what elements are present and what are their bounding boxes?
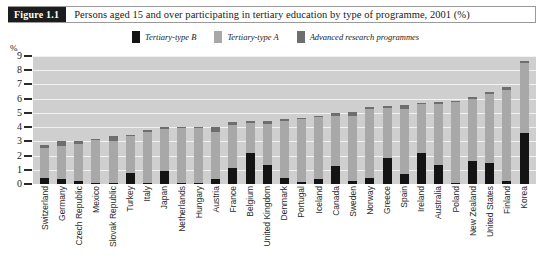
bar-segment-tertiary-type-a xyxy=(485,94,494,162)
x-axis-tick-label: United States xyxy=(485,186,494,258)
bar-segment-tertiary-type-b xyxy=(109,183,118,184)
bar-column[interactable] xyxy=(314,116,323,184)
bar-column[interactable] xyxy=(143,130,152,184)
bar-series-container xyxy=(33,56,536,184)
bar-segment-tertiary-type-b xyxy=(211,179,220,184)
bar-column[interactable] xyxy=(451,101,460,184)
legend-item[interactable]: Advanced research programmes xyxy=(297,31,420,43)
x-axis-tick-label-text: New Zealand xyxy=(468,186,477,236)
bar-column[interactable] xyxy=(57,141,66,184)
x-axis-tick-label-text: Switzerland xyxy=(40,186,49,230)
legend-swatch-icon xyxy=(214,31,222,43)
x-axis-tick-label: Turkey xyxy=(126,186,135,258)
y-axis-tick-label: 9 xyxy=(17,51,22,61)
y-axis-ticks xyxy=(24,56,32,184)
bar-column[interactable] xyxy=(246,121,255,184)
x-axis-tick-label-text: Slovak Republic xyxy=(109,186,118,247)
bar-segment-tertiary-type-b xyxy=(331,166,340,184)
x-axis-tick-label-text: Hungary xyxy=(194,186,203,218)
bar-column[interactable] xyxy=(263,121,272,184)
bar-segment-tertiary-type-b xyxy=(228,168,237,184)
bar-column[interactable] xyxy=(485,92,494,184)
bar-column[interactable] xyxy=(400,105,409,184)
x-axis-tick-label-text: Mexico xyxy=(91,186,100,213)
x-axis-tick-label-text: Iceland xyxy=(314,186,323,213)
x-axis-tick-label-text: Belgium xyxy=(246,186,255,217)
bar-segment-tertiary-type-a xyxy=(91,140,100,183)
x-axis-tick-label: Korea xyxy=(520,186,529,258)
x-axis-tick-label-text: Austria xyxy=(211,186,220,212)
x-axis-tick-label-text: Japan xyxy=(160,186,169,209)
x-axis-tick-label-text: Norway xyxy=(365,186,374,215)
x-axis-tick-label-text: Spain xyxy=(400,186,409,208)
bar-segment-tertiary-type-b xyxy=(40,178,49,184)
bar-column[interactable] xyxy=(520,61,529,184)
bar-segment-tertiary-type-b xyxy=(297,182,306,184)
bar-column[interactable] xyxy=(417,103,426,184)
bar-column[interactable] xyxy=(331,113,340,184)
x-axis-tick-label-text: Australia xyxy=(434,186,443,219)
bar-column[interactable] xyxy=(297,118,306,184)
x-axis-labels: SwitzerlandGermanyCzech RepublicMexicoSl… xyxy=(33,186,536,258)
figure-number-badge: Figure 1.1 xyxy=(8,7,66,22)
bar-column[interactable] xyxy=(126,135,135,184)
chart-area: 0123456789 xyxy=(9,56,536,184)
bar-segment-tertiary-type-b xyxy=(348,181,357,184)
bar-column[interactable] xyxy=(74,141,83,184)
bar-segment-tertiary-type-b xyxy=(194,183,203,184)
y-axis-tick-label: 3 xyxy=(17,136,22,146)
bar-segment-tertiary-type-a xyxy=(297,119,306,182)
bar-segment-tertiary-type-a xyxy=(365,109,374,178)
x-axis-tick-label-text: Netherlands xyxy=(177,186,186,232)
legend-label: Tertiary-type A xyxy=(227,32,278,42)
y-axis-tick-label: 8 xyxy=(17,65,22,75)
x-axis-tick-label: Poland xyxy=(451,186,460,258)
x-axis-tick-label-text: Greece xyxy=(383,186,392,214)
bar-segment-tertiary-type-a xyxy=(331,116,340,166)
bar-column[interactable] xyxy=(365,107,374,184)
y-axis-labels: 0123456789 xyxy=(9,56,22,184)
bar-column[interactable] xyxy=(434,102,443,184)
bar-column[interactable] xyxy=(280,119,289,184)
bar-segment-tertiary-type-a xyxy=(451,102,460,184)
x-axis-tick-label-text: Portugal xyxy=(297,186,306,218)
y-axis-tick-mark xyxy=(24,69,32,71)
x-axis-tick-label: New Zealand xyxy=(468,186,477,258)
y-axis-tick-label: 0 xyxy=(17,179,22,189)
x-axis-tick-label-text: France xyxy=(228,186,237,212)
bar-column[interactable] xyxy=(348,112,357,184)
bar-column[interactable] xyxy=(228,122,237,184)
legend-swatch-icon xyxy=(132,31,140,43)
bar-column[interactable] xyxy=(40,145,49,184)
bar-segment-tertiary-type-b xyxy=(468,161,477,184)
bar-column[interactable] xyxy=(177,127,186,184)
bar-segment-tertiary-type-a xyxy=(228,125,237,168)
y-axis-tick-mark xyxy=(24,140,32,142)
bar-column[interactable] xyxy=(468,97,477,184)
bar-column[interactable] xyxy=(502,87,511,184)
bar-column[interactable] xyxy=(109,136,118,184)
y-axis-tick-label: 7 xyxy=(17,79,22,89)
bar-segment-tertiary-type-a xyxy=(400,109,409,174)
y-axis-tick-mark xyxy=(24,83,32,85)
figure-header: Figure 1.1 Persons aged 15 and over part… xyxy=(8,6,536,23)
plot-region xyxy=(33,56,536,184)
bar-column[interactable] xyxy=(160,127,169,184)
legend-item[interactable]: Tertiary-type A xyxy=(214,31,278,43)
bar-segment-tertiary-type-b xyxy=(502,181,511,184)
bar-column[interactable] xyxy=(211,127,220,184)
y-axis-tick-mark xyxy=(24,183,32,185)
x-axis-tick-label-text: Korea xyxy=(520,186,529,209)
bar-segment-tertiary-type-b xyxy=(520,133,529,184)
bar-segment-tertiary-type-b xyxy=(177,183,186,184)
x-axis-tick-label-text: United States xyxy=(485,186,494,237)
bar-segment-tertiary-type-b xyxy=(126,173,135,184)
bar-segment-tertiary-type-b xyxy=(383,158,392,184)
legend-item[interactable]: Tertiary-type B xyxy=(132,31,196,43)
bar-column[interactable] xyxy=(383,106,392,184)
bar-column[interactable] xyxy=(194,127,203,184)
bar-column[interactable] xyxy=(91,139,100,184)
bar-segment-tertiary-type-a xyxy=(246,123,255,153)
bar-segment-tertiary-type-a xyxy=(126,136,135,172)
x-axis-tick-label: Slovak Republic xyxy=(109,186,118,258)
